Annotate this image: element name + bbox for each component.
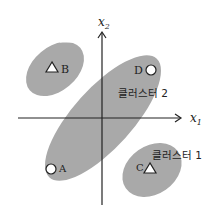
point-d-circle-icon (146, 65, 156, 75)
cluster-1-label: 클러스터 1 (152, 149, 202, 161)
point-a-circle-icon (46, 164, 56, 174)
point-d-label: D (134, 64, 143, 77)
cluster-diagram: x2 x1 B D 클러스터 2 A 클러스터 1 C (0, 0, 219, 213)
diagram-svg: x2 x1 B D 클러스터 2 A 클러스터 1 C (0, 0, 219, 213)
point-b-label: B (61, 63, 69, 76)
cluster-2-label: 클러스터 2 (118, 87, 168, 99)
x1-label: x1 (190, 111, 202, 127)
point-a-label: A (58, 163, 67, 174)
point-c-label: C (136, 162, 144, 173)
x2-label: x2 (98, 15, 110, 31)
